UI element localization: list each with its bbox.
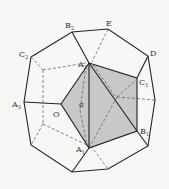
- geometry-diagram: B2 E C2 D A2 C1 A3 O a B1 A1: [0, 0, 169, 189]
- label-C1: C1: [139, 78, 148, 88]
- label-a: a: [79, 100, 84, 109]
- label-A1: A1: [75, 145, 85, 155]
- label-C2: C2: [19, 50, 28, 60]
- label-B2: B2: [65, 21, 74, 31]
- label-A3: A3: [11, 100, 21, 110]
- label-O: O: [53, 110, 60, 119]
- label-D: D: [150, 49, 156, 58]
- label-A2: A2: [77, 60, 87, 70]
- label-B1: B1: [140, 127, 149, 137]
- label-E: E: [106, 19, 112, 28]
